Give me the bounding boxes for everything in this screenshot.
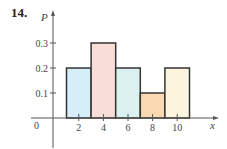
origin-label: 0 <box>34 120 39 131</box>
bar-4 <box>91 43 116 118</box>
x-tick-label: 4 <box>101 122 106 133</box>
bar-2 <box>67 68 92 118</box>
y-tick-label: 0.1 <box>36 88 49 99</box>
bar-6 <box>116 68 141 118</box>
bars-group <box>67 43 190 118</box>
bar-10 <box>165 68 190 118</box>
x-tick-label: 8 <box>150 122 155 133</box>
x-tick-label: 6 <box>126 122 131 133</box>
histogram-chart: P x 0 0.10.20.3 246810 <box>0 0 227 149</box>
y-tick-label: 0.2 <box>36 63 49 74</box>
x-tick-label: 2 <box>76 122 81 133</box>
x-axis-label: x <box>209 119 215 131</box>
y-axis-arrow-icon <box>51 10 55 16</box>
x-tick-label: 10 <box>172 122 182 133</box>
y-axis-label: P <box>40 11 48 23</box>
y-tick-label: 0.3 <box>36 38 49 49</box>
